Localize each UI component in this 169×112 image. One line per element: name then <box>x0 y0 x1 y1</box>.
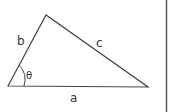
angle-label-theta: θ <box>26 70 32 81</box>
side-label-b: b <box>17 34 25 48</box>
side-label-c: c <box>96 36 103 50</box>
side-label-a: a <box>70 91 77 105</box>
angle-arc <box>19 65 25 86</box>
triangle-diagram: b c a θ <box>0 0 169 112</box>
